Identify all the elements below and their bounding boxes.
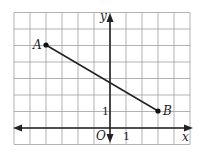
y-tick-label: 1 [102, 105, 109, 118]
y-axis-label: y [99, 9, 107, 23]
y-axis-down-arrow-icon [107, 134, 114, 143]
segment-ab [46, 45, 158, 111]
point-a [43, 42, 48, 47]
point-a-label: A [32, 38, 42, 52]
x-tick-label: 1 [123, 130, 130, 143]
point-b-label: B [162, 104, 172, 118]
point-b [155, 108, 160, 113]
y-axis [107, 13, 114, 143]
x-axis-label: x [182, 130, 189, 144]
origin-label: O [96, 129, 106, 143]
coordinate-plane: A B y x O 1 1 [0, 0, 201, 154]
y-axis-up-arrow-icon [107, 13, 114, 22]
